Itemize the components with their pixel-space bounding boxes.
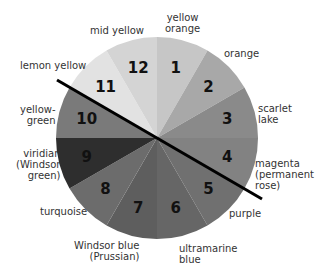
segment-number-12: 12 xyxy=(128,59,149,77)
label-yellow-green: yellow- green xyxy=(20,104,56,126)
segment-number-2: 2 xyxy=(203,78,213,96)
label-lemon-yellow: lemon yellow xyxy=(20,60,86,71)
segment-number-6: 6 xyxy=(171,199,181,217)
label-turquoise: turquoise xyxy=(40,206,87,217)
label-ultramarine-blue: ultramarine blue xyxy=(179,243,238,265)
label-purple: purple xyxy=(229,208,261,219)
segment-number-11: 11 xyxy=(95,78,116,96)
segment-number-7: 7 xyxy=(133,199,143,217)
segment-number-4: 4 xyxy=(222,148,232,166)
color-wheel: 123456789101112 xyxy=(0,0,320,277)
segment-number-1: 1 xyxy=(171,59,181,77)
segment-number-10: 10 xyxy=(76,110,97,128)
segment-number-9: 9 xyxy=(82,148,92,166)
label-orange: orange xyxy=(224,48,259,59)
label-yellow-orange: yellow orange xyxy=(165,12,200,34)
segment-number-5: 5 xyxy=(203,180,213,198)
label-windsor-blue: Windsor blue (Prussian) xyxy=(74,240,139,262)
label-magenta: magenta (permanent rose) xyxy=(255,158,314,191)
label-scarlet-lake: scarlet lake xyxy=(258,103,292,125)
segment-number-3: 3 xyxy=(222,110,232,128)
label-viridian: viridian (Windsor green) xyxy=(16,148,60,181)
label-mid-yellow: mid yellow xyxy=(90,25,144,36)
segment-number-8: 8 xyxy=(100,180,110,198)
